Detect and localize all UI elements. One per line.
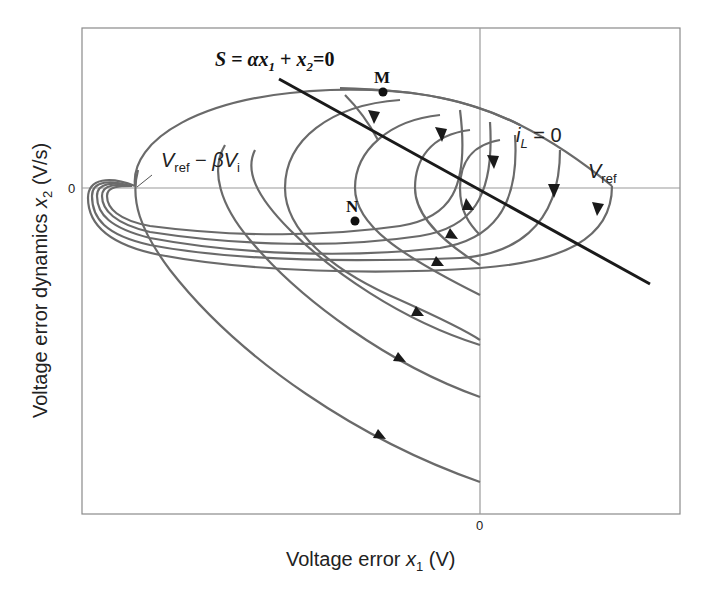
vref-beta-vi-label: Vref − βVi <box>161 149 240 175</box>
x-axis-label: Voltage error x1 (V) <box>286 548 456 574</box>
y-tick-zero: 0 <box>68 181 75 196</box>
vref-beta-pointer <box>137 175 152 187</box>
point-N-marker <box>351 217 360 226</box>
x-tick-zero: 0 <box>476 518 483 533</box>
trajectories <box>88 88 612 482</box>
y-axis-label: Voltage error dynamics x2 (V/s) <box>29 143 55 418</box>
il-zero-label: iL = 0 <box>516 124 562 151</box>
sliding-surface-label: S = αx1 + x2=0 <box>215 48 334 74</box>
vref-label: Vref <box>588 160 617 186</box>
point-M-label: M <box>374 68 390 87</box>
point-N-label: N <box>346 197 359 216</box>
point-M-marker <box>379 88 388 97</box>
direction-arrows <box>368 110 604 439</box>
phase-plane-diagram: S = αx1 + x2=0 M N iL = 0 Vref Vref − βV… <box>0 0 711 602</box>
